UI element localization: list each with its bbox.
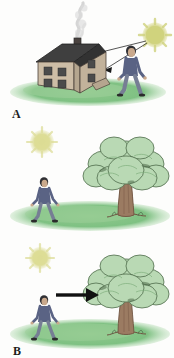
panel-label-a: A	[12, 108, 21, 120]
panel-a-illustration	[0, 0, 174, 124]
panel-b-illustration	[0, 120, 174, 240]
sun-icon	[27, 127, 57, 157]
panel-c: C	[0, 238, 174, 358]
panel-c-illustration	[0, 238, 174, 358]
panel-a: A	[0, 0, 174, 124]
house	[36, 38, 110, 93]
panel-b: B	[0, 120, 174, 240]
sun-icon	[139, 19, 171, 51]
house-side-wall	[74, 62, 80, 93]
house-front-wall	[38, 62, 74, 90]
figure-container: A	[0, 0, 174, 358]
tree-canopy	[83, 255, 169, 308]
sun-icon	[26, 244, 54, 272]
tree-canopy	[83, 137, 169, 190]
